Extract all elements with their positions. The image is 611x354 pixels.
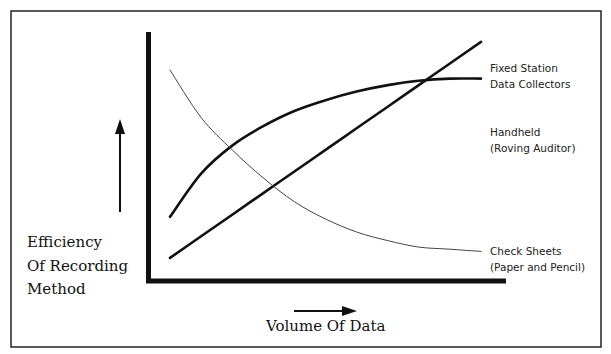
series-line-1 bbox=[170, 78, 481, 216]
y-label-line-3: Method bbox=[27, 280, 86, 298]
y-axis-label: Efficiency Of Recording Method bbox=[27, 233, 128, 298]
y-label-line-2: Of Recording bbox=[27, 257, 128, 275]
y-label-line-1: Efficiency bbox=[27, 233, 103, 251]
x-axis-label: Volume Of Data bbox=[265, 317, 385, 335]
series-label-2-line-1: (Paper and Pencil) bbox=[490, 261, 585, 273]
right-arrow-icon bbox=[294, 306, 357, 316]
series-label-2-line-0: Check Sheets bbox=[490, 245, 561, 257]
series-label-0-line-1: Data Collectors bbox=[490, 78, 571, 90]
series-line-0 bbox=[170, 42, 481, 258]
series-layer bbox=[170, 42, 481, 258]
series-labels: Fixed StationData CollectorsHandheld(Rov… bbox=[490, 62, 585, 273]
series-label-0-line-0: Fixed Station bbox=[490, 62, 558, 74]
up-arrow-icon bbox=[115, 119, 125, 212]
series-label-1-line-0: Handheld bbox=[490, 126, 540, 138]
series-label-1-line-1: (Roving Auditor) bbox=[490, 142, 576, 154]
